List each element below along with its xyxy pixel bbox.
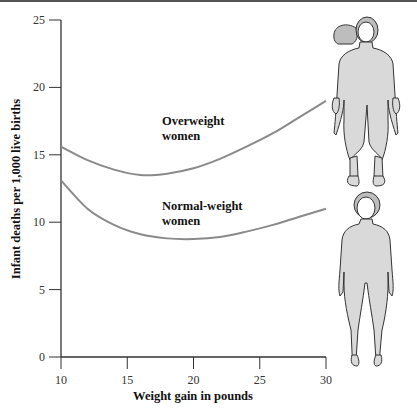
x-tick-label: 25 (254, 373, 266, 387)
x-axis: 1015202530 (55, 357, 332, 387)
series-label: Normal-weight (162, 199, 243, 213)
y-tick-label: 25 (33, 13, 45, 27)
y-tick-label: 15 (33, 148, 45, 162)
series-label: women (162, 129, 200, 143)
chart: 0510152025 1015202530 OverweightwomenNor… (0, 0, 417, 417)
x-tick-label: 30 (320, 373, 332, 387)
x-tick-label: 10 (55, 373, 67, 387)
series-label: women (162, 214, 200, 228)
y-axis: 0510152025 (33, 13, 61, 364)
x-tick-label: 20 (188, 373, 200, 387)
y-tick-label: 5 (39, 283, 45, 297)
x-axis-title: Weight gain in pounds (133, 389, 253, 403)
x-tick-label: 15 (121, 373, 133, 387)
series-label: Overweight (162, 114, 225, 128)
y-tick-label: 10 (33, 215, 45, 229)
y-axis-title: Infant deaths per 1,000 live births (9, 99, 23, 279)
normal-weight-woman-figure (339, 192, 393, 366)
y-tick-label: 20 (33, 80, 45, 94)
y-tick-label: 0 (39, 350, 45, 364)
overweight-woman-figure (332, 17, 399, 186)
